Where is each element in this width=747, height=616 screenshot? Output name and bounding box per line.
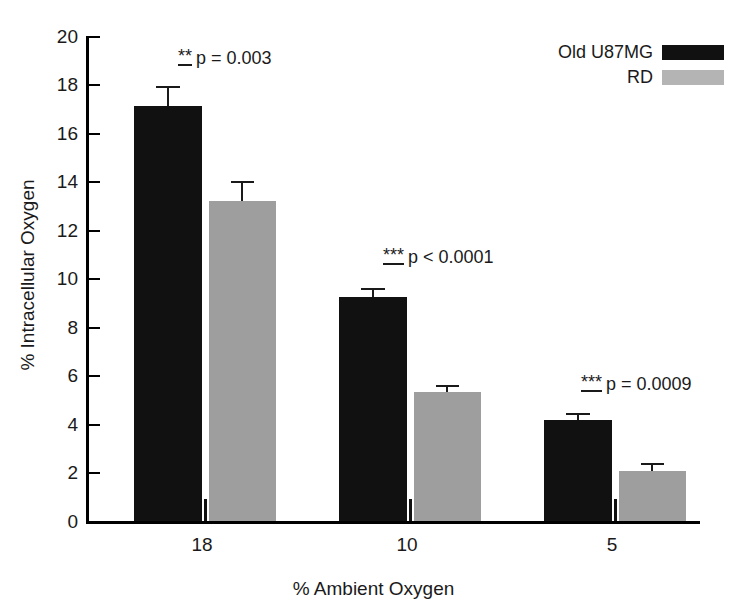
legend-item-rd[interactable]: RD — [528, 66, 724, 88]
significance-stars-10: *** — [383, 249, 404, 265]
x-axis-tick-label-18: 18 — [162, 534, 242, 556]
y-axis-tick-label: 0 — [42, 512, 78, 531]
y-axis-tick-label: 6 — [42, 366, 78, 385]
group-separator-tick-10 — [409, 499, 412, 521]
significance-annotation-18: **p = 0.003 — [178, 48, 272, 69]
x-axis-title: % Ambient Oxygen — [0, 578, 747, 600]
bar-old-u87mg-18[interactable] — [134, 106, 202, 521]
y-axis-tick-label: 18 — [42, 75, 78, 94]
y-axis-tick-label: 12 — [42, 221, 78, 240]
errorbar-rd-5 — [651, 464, 653, 471]
y-axis-tick-label: 2 — [42, 463, 78, 482]
x-axis-tick-label-10: 10 — [367, 534, 447, 556]
legend-swatch-rd — [662, 70, 724, 85]
bar-old-u87mg-5[interactable] — [544, 420, 612, 521]
errorbar-cap-old-u87mg-5 — [566, 413, 590, 415]
bar-chart-figure: 20 18 16 14 12 10 8 6 4 2 0 % Intracellu… — [0, 0, 747, 616]
errorbar-cap-old-u87mg-18 — [156, 86, 180, 88]
significance-annotation-10: ***p < 0.0001 — [383, 247, 494, 268]
legend-label-old-u87mg: Old U87MG — [558, 42, 653, 63]
y-axis-tick-label: 10 — [42, 269, 78, 288]
errorbar-old-u87mg-10 — [372, 289, 374, 297]
errorbar-cap-old-u87mg-10 — [361, 288, 385, 290]
bar-rd-5[interactable] — [619, 471, 686, 521]
y-axis-tick-label: 16 — [42, 124, 78, 143]
bar-rd-18[interactable] — [209, 201, 276, 521]
errorbar-cap-rd-5 — [641, 463, 664, 465]
legend: Old U87MG RD — [528, 41, 724, 91]
x-axis-line — [86, 521, 700, 524]
significance-pvalue-5: p = 0.0009 — [606, 374, 692, 394]
y-axis-tick-label: 4 — [42, 415, 78, 434]
group-separator-tick-5 — [614, 499, 617, 521]
significance-pvalue-18: p = 0.003 — [196, 48, 272, 68]
legend-swatch-old-u87mg — [662, 45, 724, 60]
x-axis-tick-label-5: 5 — [572, 534, 652, 556]
bar-rd-10[interactable] — [414, 392, 481, 521]
y-axis-title: % Intracellular Oxygen — [17, 135, 39, 415]
plot-area — [88, 36, 700, 521]
errorbar-cap-rd-18 — [231, 181, 254, 183]
significance-pvalue-10: p < 0.0001 — [408, 247, 494, 267]
legend-label-rd: RD — [627, 67, 653, 88]
errorbar-old-u87mg-18 — [167, 87, 169, 106]
group-separator-tick-18 — [204, 499, 207, 521]
legend-item-old-u87mg[interactable]: Old U87MG — [528, 41, 724, 63]
errorbar-cap-rd-10 — [436, 385, 459, 387]
significance-stars-5: *** — [581, 376, 602, 392]
y-axis-tick-label: 14 — [42, 172, 78, 191]
significance-annotation-5: ***p = 0.0009 — [581, 374, 692, 395]
bar-old-u87mg-10[interactable] — [339, 297, 407, 521]
y-axis-tick-label: 8 — [42, 318, 78, 337]
significance-stars-18: ** — [178, 50, 192, 66]
y-axis-tick-label: 20 — [42, 27, 78, 46]
errorbar-rd-18 — [241, 182, 243, 201]
